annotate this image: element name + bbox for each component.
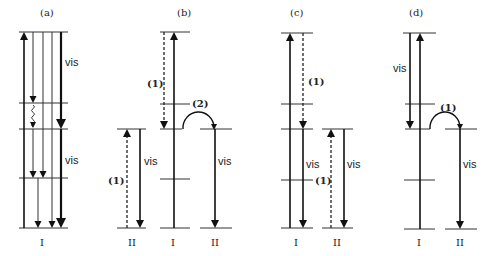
panel-d: (d)(1)visvisIII — [393, 7, 477, 248]
ion-label: II — [128, 237, 136, 248]
energy-level-diagram: (a)visvisI(b)(1)(2)(1)visvisIIIII(c)(1)(… — [0, 0, 489, 256]
arrowhead-icon — [56, 218, 66, 228]
arrowhead-icon — [406, 121, 414, 129]
arrowhead-icon — [456, 221, 464, 229]
process-label: (1) — [147, 78, 163, 89]
ion-label: I — [417, 237, 421, 248]
arrowhead-icon — [211, 220, 219, 228]
process-label: (1) — [308, 76, 324, 87]
arrowhead-icon — [20, 32, 28, 40]
arrowhead-icon — [340, 220, 348, 228]
ion-label: II — [211, 237, 219, 248]
arrowhead-icon — [40, 171, 47, 178]
energy-transfer-arc — [430, 112, 460, 129]
panel-c: (c)(1)(1)visvisIII — [281, 7, 361, 248]
arrowhead-icon — [416, 33, 424, 41]
ion-label: I — [294, 237, 298, 248]
panel-b: (b)(1)(2)(1)visvisIIIII — [108, 7, 232, 248]
arrowhead-icon — [30, 171, 37, 178]
energy-transfer-arc — [183, 112, 214, 129]
vis-emission-label: vis — [306, 158, 320, 170]
panel-a: (a)visvisI — [19, 7, 79, 248]
arrowhead-icon — [30, 122, 36, 128]
arrowhead-icon — [35, 221, 42, 228]
vis-emission-label: vis — [393, 62, 407, 74]
arrowhead-icon — [299, 220, 307, 228]
arrowhead-icon — [327, 129, 335, 137]
vis-emission-label: vis — [65, 56, 79, 68]
process-label: (2) — [192, 98, 208, 109]
vis-emission-label: vis — [144, 155, 158, 167]
arrowhead-icon — [49, 221, 56, 228]
arrowhead-icon — [56, 119, 66, 129]
vis-emission-label: vis — [463, 158, 477, 170]
panel-label: (a) — [40, 7, 54, 18]
arrowhead-icon — [160, 121, 168, 129]
vis-emission-label: vis — [218, 155, 232, 167]
vis-emission-label: vis — [347, 158, 361, 170]
ion-label: II — [333, 237, 341, 248]
panel-label: (c) — [290, 7, 304, 18]
arrowhead-icon — [299, 121, 307, 129]
ion-label: II — [456, 237, 464, 248]
arrowhead-icon — [136, 220, 144, 228]
arrowhead-icon — [286, 33, 294, 41]
ion-label: I — [171, 237, 175, 248]
arrowhead-icon — [123, 129, 131, 137]
process-label: (1) — [108, 175, 124, 186]
arrowhead-icon — [170, 32, 178, 40]
process-label: (1) — [440, 102, 456, 113]
ion-label: I — [40, 237, 44, 248]
arrowhead-icon — [30, 96, 37, 103]
vis-emission-label: vis — [65, 154, 79, 166]
panel-label: (d) — [409, 7, 423, 18]
process-label: (1) — [315, 175, 331, 186]
panel-label: (b) — [177, 7, 191, 18]
